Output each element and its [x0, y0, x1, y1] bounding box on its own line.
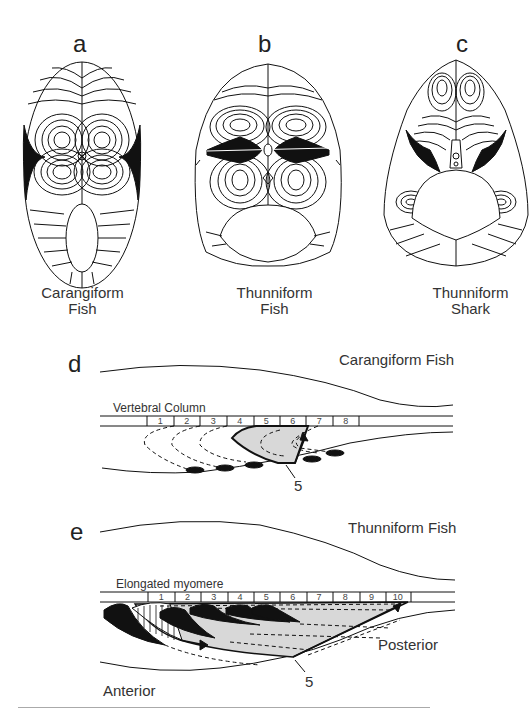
panel-e-title: Thunniform Fish [348, 519, 456, 536]
segment-number: 8 [332, 592, 358, 602]
segment-number: 6 [280, 416, 307, 426]
vertebral-column-label: Vertebral Column [113, 401, 206, 415]
segment-number: 1 [147, 416, 174, 426]
panel-letter-e: e [70, 518, 83, 546]
segment-number: 3 [201, 592, 227, 602]
segment-number: 4 [227, 592, 253, 602]
segment-number: 5 [253, 592, 279, 602]
segment-number: 3 [200, 416, 227, 426]
segment-number: 7 [306, 416, 333, 426]
segment-numbers-e: 1 2 3 4 5 6 7 8 9 10 [148, 592, 411, 602]
segment-number: 6 [279, 592, 305, 602]
segment-number: 2 [174, 592, 200, 602]
panel-letter-d: d [68, 350, 81, 378]
segment-number: 1 [148, 592, 174, 602]
segment-number: 7 [306, 592, 332, 602]
segment-number: 9 [358, 592, 384, 602]
panel-d-title: Carangiform Fish [339, 351, 454, 368]
cross-section-a [23, 62, 140, 288]
cross-section-b [195, 64, 341, 266]
bottom-rule [18, 707, 430, 708]
posterior-label: Posterior [378, 636, 438, 653]
anterior-label: Anterior [103, 682, 156, 699]
elongated-myomere-label: Elongated myomere [116, 577, 223, 591]
segment-number: 8 [333, 416, 360, 426]
segment-number: 5 [253, 416, 280, 426]
pointer-label-e: 5 [305, 673, 313, 690]
segment-number: 10 [385, 592, 411, 602]
segment-number: 4 [227, 416, 254, 426]
pointer-label-d: 5 [294, 477, 302, 494]
cross-section-c [384, 60, 528, 266]
segment-numbers-d: 1 2 3 4 5 6 7 8 [147, 416, 359, 426]
segment-number: 2 [174, 416, 201, 426]
